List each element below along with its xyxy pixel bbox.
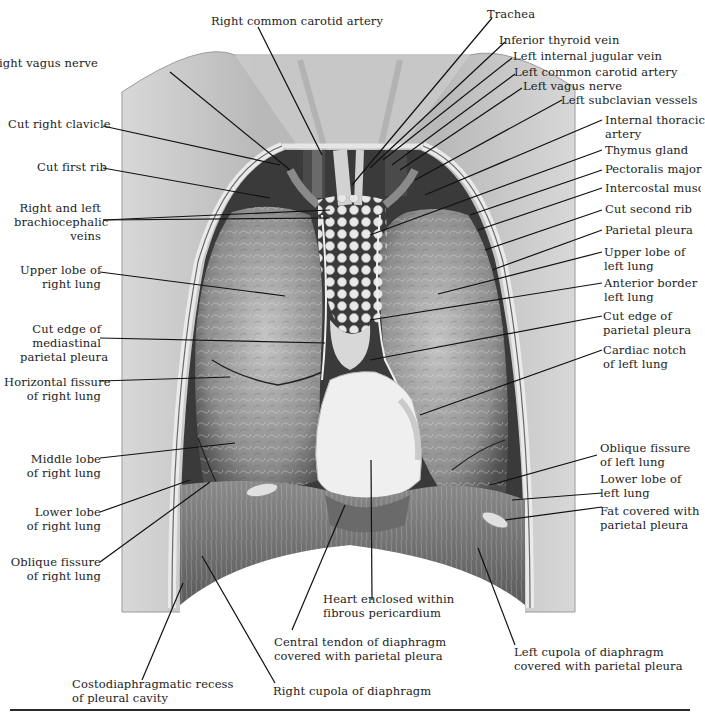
label-text: Pectoralis major bbox=[605, 162, 702, 176]
label-upper-lobe-left-lung: Upper lobe of left lung bbox=[604, 245, 685, 273]
label-costodiaphragmatic-recess: Costodiaphragmatic recess of pleural cav… bbox=[72, 677, 234, 705]
label-line: parietal pleura bbox=[20, 350, 101, 364]
label-line: Right and left bbox=[14, 201, 101, 215]
label-line: Cut edge of bbox=[603, 309, 691, 323]
label-line: Upper lobe of bbox=[20, 263, 101, 277]
label-left-cupola: Left cupola of diaphragm covered with pa… bbox=[514, 645, 683, 673]
label-trachea: Trachea bbox=[487, 7, 535, 21]
label-left-vagus-nerve: Left vagus nerve bbox=[523, 79, 622, 93]
label-line: Anterior border of bbox=[604, 276, 701, 290]
label-line: left lung bbox=[600, 486, 681, 500]
label-text: Left subclavian vessels bbox=[561, 93, 698, 107]
label-thymus-gland: Thymus gland bbox=[605, 143, 688, 157]
label-line: parietal pleura bbox=[600, 518, 699, 532]
label-text: Cut right clavicle bbox=[8, 117, 111, 131]
label-text: Parietal pleura bbox=[605, 223, 693, 237]
label-inferior-thyroid-vein: Inferior thyroid vein bbox=[499, 33, 619, 47]
label-line: Left cupola of diaphragm bbox=[514, 645, 683, 659]
label-cut-first-rib: Cut first rib bbox=[37, 160, 107, 174]
label-line: Heart enclosed within bbox=[323, 592, 454, 606]
label-line: fibrous pericardium bbox=[323, 606, 454, 620]
label-parietal-pleura: Parietal pleura bbox=[605, 223, 693, 237]
label-line: Fat covered with bbox=[600, 504, 699, 518]
label-text: Left vagus nerve bbox=[523, 79, 622, 93]
label-cut-right-clavicle: Cut right clavicle bbox=[8, 117, 111, 131]
label-line: brachiocephalic bbox=[14, 215, 101, 229]
label-horizontal-fissure: Horizontal fissure of right lung bbox=[4, 375, 101, 403]
label-line: Central tendon of diaphragm bbox=[274, 635, 446, 649]
label-line: of right lung bbox=[10, 569, 101, 583]
label-line: covered with parietal pleura bbox=[514, 659, 683, 673]
label-cardiac-notch: Cardiac notch of left lung bbox=[603, 343, 686, 371]
label-anterior-border-left-lung: Anterior border of left lung bbox=[604, 276, 701, 304]
label-line: right lung bbox=[20, 277, 101, 291]
label-right-cupola: Right cupola of diaphragm bbox=[273, 684, 431, 698]
label-line: of left lung bbox=[603, 357, 686, 371]
label-line: Lower lobe of bbox=[600, 472, 681, 486]
label-line: mediastinal bbox=[20, 336, 101, 350]
label-line: Middle lobe bbox=[20, 452, 101, 466]
label-line: parietal pleura bbox=[603, 323, 691, 337]
label-internal-thoracic-artery: Internal thoracic artery bbox=[605, 113, 705, 141]
label-oblique-fissure-left: Oblique fissure of left lung bbox=[600, 441, 690, 469]
label-line: left lung bbox=[604, 290, 701, 304]
label-text: Thymus gland bbox=[605, 143, 688, 157]
label-line: veins bbox=[14, 229, 101, 243]
label-line: of pleural cavity bbox=[72, 691, 234, 705]
label-line: artery bbox=[605, 127, 705, 141]
label-line: Lower lobe bbox=[20, 505, 101, 519]
label-right-common-carotid-artery: Right common carotid artery bbox=[211, 14, 383, 28]
label-pectoralis-major: Pectoralis major bbox=[605, 162, 702, 176]
label-text: Intercostal muscle bbox=[605, 181, 701, 195]
label-left-common-carotid-artery: Left common carotid artery bbox=[514, 65, 678, 79]
label-fat-parietal-pleura: Fat covered with parietal pleura bbox=[600, 504, 699, 532]
label-text: Trachea bbox=[487, 7, 535, 21]
label-text: Right vagus nerve bbox=[0, 56, 98, 70]
label-text: Left internal jugular vein bbox=[513, 49, 662, 63]
label-line: of right lung bbox=[20, 519, 101, 533]
label-text: Right cupola of diaphragm bbox=[273, 684, 431, 698]
label-text: Cut second rib bbox=[605, 202, 692, 216]
label-line: Horizontal fissure bbox=[4, 375, 101, 389]
label-text: Cut first rib bbox=[37, 160, 107, 174]
label-line: Internal thoracic bbox=[605, 113, 705, 127]
label-text: Inferior thyroid vein bbox=[499, 33, 619, 47]
label-line: Costodiaphragmatic recess bbox=[72, 677, 234, 691]
label-text: Left common carotid artery bbox=[514, 65, 678, 79]
label-line: covered with parietal pleura bbox=[274, 649, 446, 663]
label-cut-edge-parietal-pleura: Cut edge of parietal pleura bbox=[603, 309, 691, 337]
label-cut-edge-mediastinal-pleura: Cut edge of mediastinal parietal pleura bbox=[20, 322, 101, 364]
label-oblique-fissure-right: Oblique fissure of right lung bbox=[10, 555, 101, 583]
label-intercostal-muscle: Intercostal muscle bbox=[605, 181, 701, 195]
label-upper-lobe-right-lung: Upper lobe of right lung bbox=[20, 263, 101, 291]
label-line: Upper lobe of bbox=[604, 245, 685, 259]
label-left-subclavian-vessels: Left subclavian vessels bbox=[561, 93, 698, 107]
label-middle-lobe-right-lung: Middle lobe of right lung bbox=[20, 452, 101, 480]
label-heart-pericardium: Heart enclosed within fibrous pericardiu… bbox=[323, 592, 454, 620]
label-brachiocephalic-veins: Right and left brachiocephalic veins bbox=[14, 201, 101, 243]
label-right-vagus-nerve: Right vagus nerve bbox=[0, 56, 98, 70]
label-line: Cardiac notch bbox=[603, 343, 686, 357]
label-line: Oblique fissure bbox=[600, 441, 690, 455]
label-central-tendon: Central tendon of diaphragm covered with… bbox=[274, 635, 446, 663]
bottom-divider bbox=[10, 709, 690, 711]
label-line: Oblique fissure bbox=[10, 555, 101, 569]
label-lower-lobe-right-lung: Lower lobe of right lung bbox=[20, 505, 101, 533]
label-line: Cut edge of bbox=[20, 322, 101, 336]
label-text: Right common carotid artery bbox=[211, 14, 383, 28]
label-line: of right lung bbox=[20, 466, 101, 480]
label-line: of right lung bbox=[4, 389, 101, 403]
label-left-internal-jugular-vein: Left internal jugular vein bbox=[513, 49, 662, 63]
label-lower-lobe-left-lung: Lower lobe of left lung bbox=[600, 472, 681, 500]
label-line: left lung bbox=[604, 259, 685, 273]
label-cut-second-rib: Cut second rib bbox=[605, 202, 692, 216]
label-line: of left lung bbox=[600, 455, 690, 469]
